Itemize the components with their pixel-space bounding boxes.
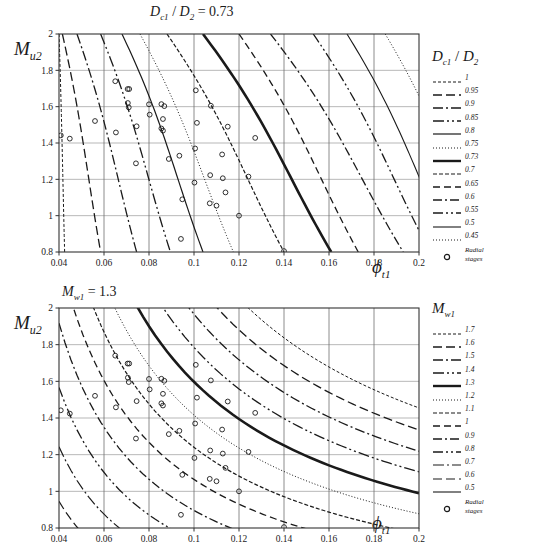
legend-item-label: 0.9 (465, 99, 474, 108)
svg-text:0.08: 0.08 (141, 258, 158, 268)
legend-line-swatch (432, 178, 462, 188)
svg-text:0.8: 0.8 (41, 247, 53, 257)
chart-top-legend-title: Dc1 / D2 (432, 48, 484, 67)
legend-item[interactable]: 0.65 (432, 177, 484, 190)
legend-item-label: 0.8 (465, 126, 474, 135)
chart-bottom-legend-marker-row: Radialstages (432, 498, 484, 517)
legend-item-label: 0.5 (465, 483, 474, 492)
legend-item-label: 0.8 (465, 444, 474, 453)
chart-bottom-legend-rows: 1.71.61.51.41.31.21.110.90.80.70.60.5 (432, 323, 484, 494)
svg-text:1.2: 1.2 (41, 175, 53, 185)
legend-item-label: 0.45 (465, 231, 478, 240)
legend-item[interactable]: 0.85 (432, 111, 484, 124)
legend-line-swatch (432, 443, 462, 453)
legend-item[interactable]: 1 (432, 415, 484, 428)
legend-item[interactable]: 1 (432, 71, 484, 84)
svg-text:1: 1 (48, 211, 53, 221)
legend-line-swatch (432, 73, 462, 83)
svg-text:0.12: 0.12 (231, 534, 248, 544)
legend-item[interactable]: 0.5 (432, 216, 484, 229)
svg-text:0.18: 0.18 (366, 534, 383, 544)
radial-stage-marker-icon (432, 246, 462, 265)
legend-item[interactable]: 0.45 (432, 229, 484, 242)
legend-line-swatch (432, 204, 462, 214)
legend-item[interactable]: 1.4 (432, 363, 484, 376)
legend-item[interactable]: 0.7 (432, 163, 484, 176)
legend-line-swatch (432, 191, 462, 201)
svg-text:0.06: 0.06 (96, 534, 113, 544)
svg-text:0.18: 0.18 (366, 258, 383, 268)
legend-item-label: 1.4 (465, 365, 474, 374)
legend-item[interactable]: 0.95 (432, 84, 484, 97)
chart-bottom-legend-marker-label: Radialstages (465, 498, 484, 515)
svg-text:0.16: 0.16 (321, 534, 338, 544)
legend-item[interactable]: 0.9 (432, 429, 484, 442)
svg-text:0.06: 0.06 (96, 258, 113, 268)
legend-line-swatch (432, 231, 462, 241)
svg-text:2: 2 (48, 303, 53, 313)
svg-text:0.2: 0.2 (413, 534, 425, 544)
chart-top-legend-rows: 10.950.90.850.80.750.730.70.650.60.550.5… (432, 71, 484, 242)
chart-bottom-legend: Mw1 1.71.61.51.41.31.21.110.90.80.70.60.… (432, 300, 484, 517)
legend-item[interactable]: 1.2 (432, 389, 484, 402)
legend-item-label: 1.7 (465, 325, 474, 334)
legend-line-swatch (432, 364, 462, 374)
legend-item[interactable]: 0.8 (432, 442, 484, 455)
legend-line-swatch (432, 218, 462, 228)
legend-item[interactable]: 0.7 (432, 455, 484, 468)
legend-line-swatch (432, 456, 462, 466)
legend-line-swatch (432, 139, 462, 149)
figure-root: Dc1 / D2 = 0.73 Mu2 ϕt1 0.040.060.080.10… (0, 0, 534, 558)
svg-text:0.12: 0.12 (231, 258, 248, 268)
legend-item[interactable]: 0.6 (432, 468, 484, 481)
legend-line-swatch (432, 404, 462, 414)
legend-item-label: 1 (465, 73, 469, 82)
legend-item-label: 1.5 (465, 351, 474, 360)
legend-line-swatch (432, 125, 462, 135)
legend-item-label: 0.85 (465, 113, 478, 122)
legend-item[interactable]: 0.55 (432, 203, 484, 216)
svg-text:0.1: 0.1 (188, 258, 200, 268)
chart-bottom-legend-title: Mw1 (432, 300, 484, 319)
legend-item[interactable]: 0.5 (432, 481, 484, 494)
legend-item-label: 0.7 (465, 457, 474, 466)
legend-item-label: 1.2 (465, 391, 474, 400)
legend-item-label: 0.9 (465, 431, 474, 440)
legend-item[interactable]: 0.8 (432, 124, 484, 137)
legend-item[interactable]: 1.5 (432, 349, 484, 362)
svg-text:1.6: 1.6 (41, 102, 53, 112)
legend-line-swatch (432, 417, 462, 427)
legend-line-swatch (432, 391, 462, 401)
legend-item[interactable]: 0.6 (432, 190, 484, 203)
legend-item[interactable]: 1.3 (432, 376, 484, 389)
svg-text:0.14: 0.14 (276, 534, 293, 544)
svg-text:0.8: 0.8 (41, 523, 53, 533)
legend-line-swatch (432, 483, 462, 493)
chart-top-legend-marker-label: Radialstages (465, 246, 484, 263)
svg-text:1.2: 1.2 (41, 450, 53, 460)
legend-item[interactable]: 0.9 (432, 97, 484, 110)
legend-item-label: 0.65 (465, 179, 478, 188)
svg-text:0.14: 0.14 (276, 258, 293, 268)
legend-item-label: 1.1 (465, 404, 474, 413)
svg-text:0.04: 0.04 (51, 534, 68, 544)
legend-item[interactable]: 0.75 (432, 137, 484, 150)
svg-text:0.08: 0.08 (141, 534, 158, 544)
legend-line-swatch (432, 351, 462, 361)
legend-item[interactable]: 1.6 (432, 336, 484, 349)
legend-item[interactable]: 0.73 (432, 150, 484, 163)
legend-line-swatch (432, 112, 462, 122)
legend-item-label: 1.6 (465, 338, 474, 347)
svg-text:0.04: 0.04 (51, 258, 68, 268)
legend-line-swatch (432, 470, 462, 480)
svg-text:1.4: 1.4 (41, 138, 53, 148)
legend-item-label: 0.7 (465, 165, 474, 174)
chart-top-legend-marker-row: Radialstages (432, 246, 484, 265)
svg-text:0.1: 0.1 (188, 534, 200, 544)
legend-line-swatch (432, 430, 462, 440)
svg-text:1.6: 1.6 (41, 377, 53, 387)
legend-line-swatch (432, 165, 462, 175)
legend-item[interactable]: 1.1 (432, 402, 484, 415)
legend-item[interactable]: 1.7 (432, 323, 484, 336)
chart-bottom: Mw1 = 1.3 Mu2 ϕt1 0.040.060.080.10.120.1… (0, 278, 534, 558)
